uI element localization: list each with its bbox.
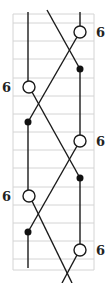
filled-dot-node: [25, 119, 32, 126]
filled-dot-node: [77, 175, 84, 182]
strand-right-circle1-to-left-dot1: [28, 37, 77, 122]
strand-right-circle2-to-left-dot2: [28, 146, 77, 232]
node-label: 6: [96, 25, 105, 40]
node-label: 6: [96, 134, 105, 149]
open-circle-node: [74, 244, 86, 256]
strand-left-circle2-to-bottom: [32, 201, 72, 283]
string-diagram: 66666: [0, 0, 106, 283]
open-circle-node: [74, 135, 86, 147]
node-label: 6: [2, 80, 11, 95]
node-label: 6: [96, 243, 105, 258]
open-circle-node: [74, 26, 86, 38]
strand-left-circle1-to-right-dot2: [32, 92, 80, 178]
filled-dot-node: [25, 229, 32, 236]
strands: [28, 10, 80, 283]
open-nodes: [23, 26, 86, 256]
filled-dot-node: [77, 66, 84, 73]
open-circle-node: [23, 190, 35, 202]
node-label: 6: [2, 189, 11, 204]
open-circle-node: [23, 81, 35, 93]
